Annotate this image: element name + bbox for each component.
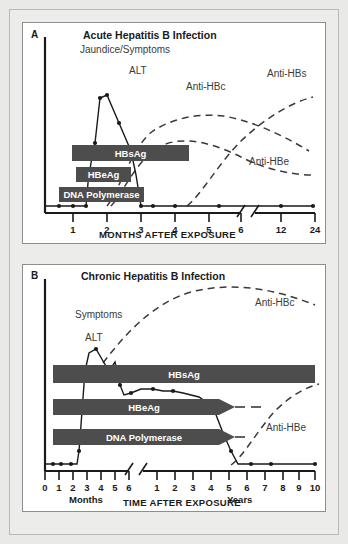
panel-b-year-tick-6: 6	[244, 482, 249, 493]
panel-b-year-tick-10: 10	[310, 482, 321, 493]
panel-a-tick-24: 24	[310, 224, 321, 235]
curve-anti-hbs	[187, 97, 313, 206]
panel-b-month-tick-2: 2	[70, 482, 75, 493]
panel-b-year-tick-3: 3	[190, 482, 195, 493]
panel-b-year-tick-7: 7	[262, 482, 267, 493]
panel-b-month-tick-4: 4	[98, 482, 103, 493]
bar-hbsag-panel-b: HBsAg	[53, 365, 315, 383]
label-alt-panel-b: ALT	[85, 332, 103, 343]
label-symptoms: Symptoms	[75, 309, 122, 320]
panel-b-letter: B	[31, 270, 38, 281]
panel-b-title: Chronic Hepatitis B Infection	[81, 270, 225, 282]
panel-b-month-tick-3: 3	[84, 482, 89, 493]
panel-b-chronic-infection: B Chronic Hepatitis B Infection Symptoms…	[22, 264, 326, 512]
bar-dna-polymerase-panel-a-label: DNA Polymerase	[59, 189, 144, 200]
bar-hbeag-panel-a-label: HBeAg	[76, 169, 131, 180]
bar-hbeag-panel-b-label: HBeAg	[128, 402, 160, 413]
panel-b-month-tick-5: 5	[112, 482, 117, 493]
panel-a-title: Acute Hepatitis B Infection	[83, 29, 217, 41]
bar-continuation-dashes	[235, 407, 261, 437]
panel-b-year-tick-2: 2	[172, 482, 177, 493]
label-anti-hbc: Anti-HBc	[186, 81, 225, 92]
label-jaundice-symptoms: Jaundice/Symptoms	[80, 44, 170, 55]
panel-b-months-group-label: Months	[69, 494, 103, 505]
panel-a-axis-break-icon	[237, 205, 259, 217]
panel-b-month-tick-1: 1	[56, 482, 61, 493]
panel-a-plot	[23, 23, 327, 245]
panel-a-letter: A	[31, 29, 38, 40]
label-anti-hbs: Anti-HBs	[267, 68, 306, 79]
label-anti-hbc-panel-b: Anti-HBc	[255, 297, 294, 308]
panel-b-month-tick-0: 0	[42, 482, 47, 493]
panel-b-month-tick-6: 6	[126, 482, 131, 493]
bar-hbeag-panel-b: HBeAg	[53, 399, 235, 415]
bar-dna-polymerase-panel-b-label: DNA Polymerase	[106, 432, 182, 443]
panel-a-axis-caption: MONTHS AFTER EXPOSURE	[99, 229, 236, 240]
bar-dna-polymerase-panel-b: DNA Polymerase	[53, 429, 235, 445]
panel-a-tick-6: 6	[238, 224, 243, 235]
label-anti-hbe-panel-b: Anti-HBe	[266, 422, 306, 433]
panel-b-year-tick-9: 9	[296, 482, 301, 493]
bar-hbsag-panel-a: HBsAg	[72, 145, 189, 161]
label-alt: ALT	[129, 65, 147, 76]
panel-b-year-tick-4: 4	[208, 482, 213, 493]
panel-b-year-tick-1: 1	[154, 482, 159, 493]
panel-b-axis-caption: TIME AFTER EXPOSURE	[123, 497, 241, 508]
label-anti-hbe: Anti-HBe	[249, 156, 289, 167]
bar-hbeag-panel-a: HBeAg	[76, 167, 131, 182]
bar-hbsag-panel-b-label: HBsAg	[53, 369, 315, 380]
bar-hbsag-panel-a-label: HBsAg	[72, 148, 189, 159]
panel-a-tick-12: 12	[276, 224, 287, 235]
panel-b-year-tick-8: 8	[280, 482, 285, 493]
bar-dna-polymerase-panel-a: DNA Polymerase	[59, 187, 144, 202]
panel-b-year-tick-5: 5	[226, 482, 231, 493]
hepatitis-b-serology-figure: A Acute Hepatitis B Infection Jaundice/S…	[0, 0, 348, 544]
panel-b-x-ticks	[45, 471, 315, 480]
panel-a-acute-infection: A Acute Hepatitis B Infection Jaundice/S…	[22, 22, 326, 244]
panel-a-x-ticks	[73, 213, 315, 222]
panel-b-axis-break-icon	[125, 463, 147, 475]
panel-a-tick-1: 1	[70, 224, 75, 235]
